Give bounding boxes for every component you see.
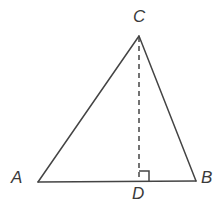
vertex-label-b: B [201, 169, 212, 186]
vertex-label-d: D [132, 185, 144, 202]
geometry-figure: C A B D [0, 0, 223, 220]
segment-ac [38, 36, 139, 182]
right-angle-marker [139, 171, 149, 181]
segment-ab [38, 181, 196, 182]
triangle-diagram-svg [0, 0, 223, 220]
vertex-label-c: C [133, 8, 145, 25]
segment-cb [139, 36, 196, 181]
vertex-label-a: A [11, 169, 22, 186]
